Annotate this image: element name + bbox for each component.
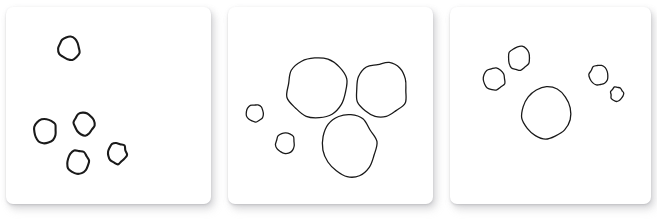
panel-3-circle-3 (522, 87, 571, 140)
panel-1-circle-1 (58, 36, 80, 60)
card-panel-3[interactable] (450, 7, 651, 204)
panel-3-circle-1 (483, 68, 505, 90)
panel-3-circle-5 (610, 87, 623, 102)
panel-1-circle-2 (34, 119, 56, 143)
panel-3-circle-4 (589, 65, 608, 85)
circle-group-panel-3 (450, 7, 651, 204)
figure-canvas (0, 0, 657, 224)
card-panel-1[interactable] (6, 7, 211, 204)
panel-2-circle-2 (275, 133, 294, 154)
panel-1-circle-5 (108, 143, 127, 164)
circle-group-panel-1 (6, 7, 211, 204)
panel-2-circle-4 (356, 62, 406, 117)
panel-2-circle-1 (246, 105, 263, 122)
panel-2-circle-5 (322, 115, 377, 178)
card-panel-2[interactable] (228, 7, 433, 204)
panel-2-circle-3 (287, 58, 347, 118)
panel-1-circle-3 (73, 113, 94, 136)
circle-group-panel-2 (228, 7, 433, 204)
panel-3-circle-2 (509, 46, 530, 70)
panel-1-circle-4 (67, 150, 89, 174)
